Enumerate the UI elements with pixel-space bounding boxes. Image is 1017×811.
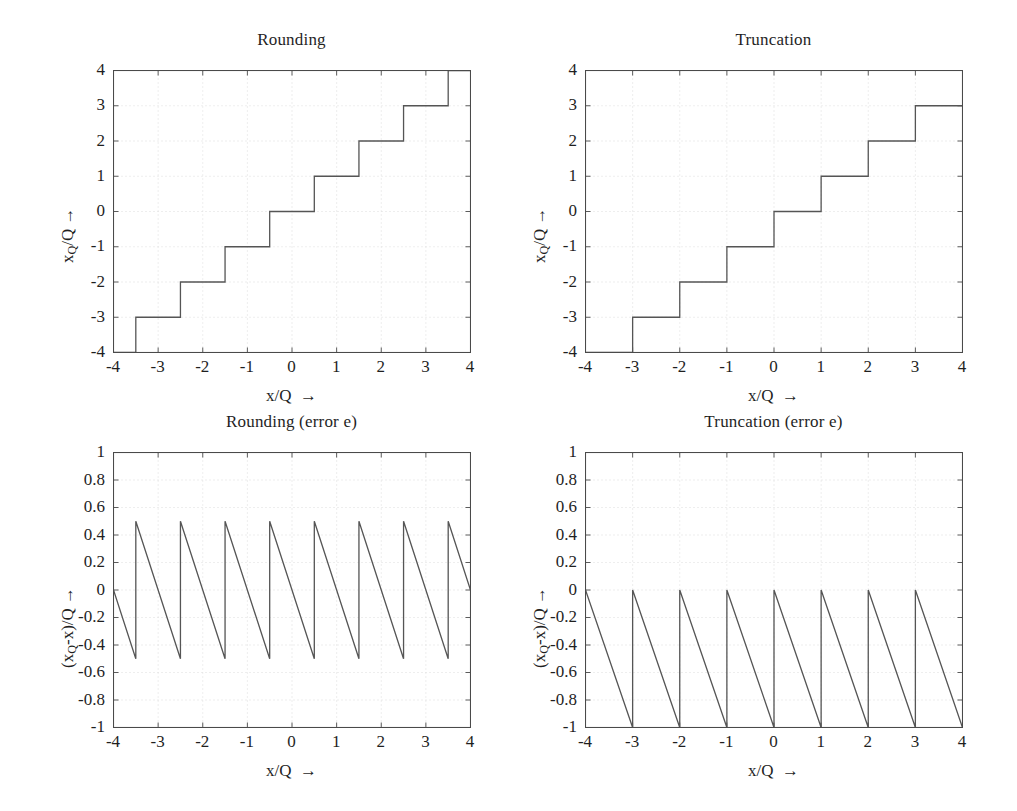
xtick-label: -3 xyxy=(138,357,178,377)
xtick-label: -1 xyxy=(227,732,267,752)
arrow-right-icon: → xyxy=(782,761,799,780)
ytick-label: 2 xyxy=(61,131,105,151)
plot-panel-rounding-error: Rounding (error e)-4-3-2-10123410.80.60.… xyxy=(36,412,500,811)
ytick-label: 4 xyxy=(61,60,105,80)
xtick-label: -3 xyxy=(138,732,178,752)
ylabel-subscript: Q xyxy=(65,246,79,255)
arrow-right-icon: → xyxy=(58,207,77,224)
yaxis-label-rounding-quantizer: xQ/Q → xyxy=(58,207,80,263)
ytick-label: 1 xyxy=(533,442,577,462)
xtick-label: 3 xyxy=(405,732,445,752)
xtick-label: 0 xyxy=(754,357,794,377)
plot-title-rounding-error: Rounding (error e) xyxy=(113,412,470,432)
xtick-label: 1 xyxy=(801,732,841,752)
arrow-right-icon: → xyxy=(782,386,799,405)
yaxis-label-rounding-error: (xQ-x)/Q → xyxy=(58,586,80,667)
plot-area-truncation-quantizer xyxy=(585,70,963,353)
xtick-label: 0 xyxy=(272,732,312,752)
xtick-label: 0 xyxy=(272,357,312,377)
xaxis-label-rounding-quantizer: x/Q → xyxy=(113,386,470,406)
ytick-label: 0.4 xyxy=(533,525,577,545)
ytick-label: 0.8 xyxy=(533,470,577,490)
ytick-label: -2 xyxy=(61,272,105,292)
xtick-label: 0 xyxy=(754,732,794,752)
ytick-label: -0.8 xyxy=(61,690,105,710)
xaxis-label-truncation-error: x/Q → xyxy=(585,761,962,781)
ylabel-subscript: Q xyxy=(65,644,79,653)
ylabel-text: xQ/Q → xyxy=(58,207,77,263)
xtick-label: -2 xyxy=(182,357,222,377)
ytick-label: 0.6 xyxy=(533,497,577,517)
xtick-label: 2 xyxy=(848,732,888,752)
xtick-label: -3 xyxy=(612,357,652,377)
ytick-label: 1 xyxy=(61,442,105,462)
ytick-label: 3 xyxy=(533,95,577,115)
xtick-label: 4 xyxy=(450,357,490,377)
xtick-label: 2 xyxy=(361,357,401,377)
ytick-label: -2 xyxy=(533,272,577,292)
ytick-label: -0.8 xyxy=(533,690,577,710)
xtick-label: 1 xyxy=(316,732,356,752)
xlabel-text: x/Q → xyxy=(748,761,799,780)
plot-title-truncation-error: Truncation (error e) xyxy=(585,412,962,432)
yaxis-label-truncation-error: (xQ-x)/Q → xyxy=(530,586,552,667)
xtick-label: -2 xyxy=(659,357,699,377)
xtick-label: 4 xyxy=(942,732,982,752)
xaxis-label-truncation-quantizer: x/Q → xyxy=(585,386,962,406)
ytick-label: -4 xyxy=(533,342,577,362)
xtick-label: -1 xyxy=(227,357,267,377)
figure-canvas: Rounding-4-3-2-10123443210-1-2-3-4x/Q →x… xyxy=(0,0,1017,811)
xtick-label: 4 xyxy=(942,357,982,377)
xlabel-text: x/Q → xyxy=(266,761,317,780)
xtick-label: -1 xyxy=(706,357,746,377)
xtick-label: -1 xyxy=(706,732,746,752)
ylabel-text: xQ/Q → xyxy=(530,207,549,263)
ytick-label: -3 xyxy=(533,307,577,327)
ytick-label: -3 xyxy=(61,307,105,327)
ylabel-subscript: Q xyxy=(537,246,551,255)
ytick-label: 0.8 xyxy=(61,470,105,490)
ytick-label: 0.4 xyxy=(61,525,105,545)
xtick-label: 2 xyxy=(848,357,888,377)
xaxis-label-rounding-error: x/Q → xyxy=(113,761,470,781)
ylabel-text: (xQ-x)/Q → xyxy=(58,586,77,667)
plot-title-rounding-quantizer: Rounding xyxy=(113,30,470,50)
plot-area-truncation-error xyxy=(585,452,963,728)
xtick-label: 1 xyxy=(801,357,841,377)
ytick-label: 1 xyxy=(533,166,577,186)
xtick-label: 2 xyxy=(361,732,401,752)
plot-area-rounding-quantizer xyxy=(113,70,471,353)
ytick-label: 0.2 xyxy=(61,552,105,572)
ytick-label: 1 xyxy=(61,166,105,186)
ytick-label: -1 xyxy=(533,717,577,737)
xtick-label: -2 xyxy=(659,732,699,752)
arrow-right-icon: → xyxy=(300,761,317,780)
xtick-label: -3 xyxy=(612,732,652,752)
ytick-label: 3 xyxy=(61,95,105,115)
xtick-label: 3 xyxy=(405,357,445,377)
ytick-label: 2 xyxy=(533,131,577,151)
plot-panel-truncation-error: Truncation (error e)-4-3-2-10123410.80.6… xyxy=(508,412,992,811)
ytick-label: 0.6 xyxy=(61,497,105,517)
xtick-label: 4 xyxy=(450,732,490,752)
plot-title-truncation-quantizer: Truncation xyxy=(585,30,962,50)
xtick-label: 3 xyxy=(895,357,935,377)
plot-area-rounding-error xyxy=(113,452,471,728)
ytick-label: 0.2 xyxy=(533,552,577,572)
ytick-label: -4 xyxy=(61,342,105,362)
arrow-right-icon: → xyxy=(530,207,549,224)
ylabel-text: (xQ-x)/Q → xyxy=(530,586,549,667)
arrow-right-icon: → xyxy=(58,586,77,603)
xtick-label: 3 xyxy=(895,732,935,752)
arrow-right-icon: → xyxy=(530,586,549,603)
ylabel-subscript: Q xyxy=(537,644,551,653)
arrow-right-icon: → xyxy=(300,386,317,405)
ytick-label: -1 xyxy=(61,717,105,737)
xtick-label: -2 xyxy=(182,732,222,752)
plot-panel-truncation-quantizer: Truncation-4-3-2-10123443210-1-2-3-4x/Q … xyxy=(508,30,992,436)
xtick-label: 1 xyxy=(316,357,356,377)
xlabel-text: x/Q → xyxy=(266,386,317,405)
yaxis-label-truncation-quantizer: xQ/Q → xyxy=(530,207,552,263)
plot-panel-rounding-quantizer: Rounding-4-3-2-10123443210-1-2-3-4x/Q →x… xyxy=(36,30,500,436)
xlabel-text: x/Q → xyxy=(748,386,799,405)
